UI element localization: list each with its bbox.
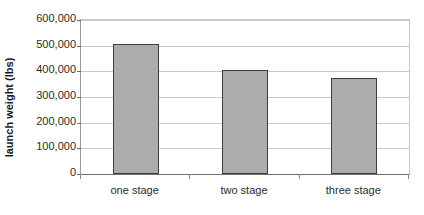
x-axis-tick-label: two stage	[189, 184, 298, 196]
x-axis-tick-label: one stage	[80, 184, 189, 196]
bar-three-stage	[331, 78, 377, 174]
x-axis-tick-mark	[299, 174, 300, 179]
gridline	[81, 20, 409, 21]
y-axis-tick-label: 100,000	[16, 141, 76, 152]
bar-chart: launch weight (lbs) 0100,000200,000300,0…	[0, 0, 424, 215]
y-axis-tick-label: 300,000	[16, 90, 76, 101]
y-axis-tick-mark	[77, 46, 81, 47]
y-axis-tick-label: 200,000	[16, 116, 76, 127]
y-axis-tick-labels: 0100,000200,000300,000400,000500,000600,…	[14, 0, 76, 215]
y-axis-tick-mark	[77, 148, 81, 149]
y-axis-tick-mark	[77, 71, 81, 72]
y-axis-tick-label: 0	[16, 167, 76, 178]
bar-one-stage	[113, 44, 159, 174]
x-axis-tick-label: three stage	[299, 184, 408, 196]
x-axis-tick-mark	[189, 174, 190, 179]
y-axis-tick-label: 600,000	[16, 13, 76, 24]
y-axis-tick-mark	[77, 123, 81, 124]
x-axis-tick-mark	[408, 174, 409, 179]
plot-area	[80, 19, 410, 175]
y-axis-tick-mark	[77, 97, 81, 98]
y-axis-tick-mark	[77, 20, 81, 21]
bar-two-stage	[222, 70, 268, 174]
y-axis-tick-label: 500,000	[16, 39, 76, 50]
x-axis-tick-mark	[80, 174, 81, 179]
y-axis-tick-label: 400,000	[16, 64, 76, 75]
